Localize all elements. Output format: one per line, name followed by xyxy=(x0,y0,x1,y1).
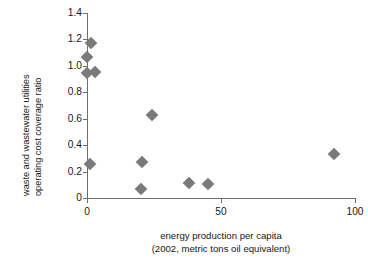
plot-area: 050100 xyxy=(87,13,355,198)
y-tick-mark xyxy=(83,13,87,14)
x-tick-mark xyxy=(355,198,356,203)
data-point-marker xyxy=(81,50,94,63)
data-point-marker xyxy=(202,178,215,191)
y-tick-label: 0.6 xyxy=(56,114,82,124)
y-tick-mark xyxy=(83,119,87,120)
data-point-marker xyxy=(136,156,149,169)
y-axis-title-line-2: operating cost coverage ratio xyxy=(33,78,43,196)
x-axis-title: energy production per capita (2002, metr… xyxy=(87,229,355,255)
x-axis-title-line-1: energy production per capita xyxy=(87,229,355,242)
y-tick-mark xyxy=(83,92,87,93)
data-point-marker xyxy=(327,148,340,161)
x-tick-label: 100 xyxy=(347,206,364,217)
data-point-marker xyxy=(89,66,102,79)
y-tick-label: 1.2 xyxy=(56,34,82,44)
data-point-marker xyxy=(135,183,148,196)
y-tick-label: 0 xyxy=(56,193,82,203)
scatter-chart: waste and wastewater utilities operating… xyxy=(0,0,368,273)
y-tick-label: 0.8 xyxy=(56,87,82,97)
y-tick-label: 1.4 xyxy=(56,8,82,18)
data-point-marker xyxy=(84,157,97,170)
data-point-marker xyxy=(182,176,195,189)
y-tick-label: 0.4 xyxy=(56,140,82,150)
x-tick-label: 0 xyxy=(84,206,90,217)
x-tick-mark xyxy=(87,198,88,203)
y-tick-mark xyxy=(83,145,87,146)
x-axis-title-line-2: (2002, metric tons oil equivalent) xyxy=(87,242,355,255)
data-point-marker xyxy=(146,108,159,121)
y-tick-mark xyxy=(83,172,87,173)
y-axis-tick-labels: 00.20.40.60.81.01.21.4 xyxy=(56,0,82,205)
y-axis-title: waste and wastewater utilities operating… xyxy=(0,0,62,205)
y-tick-label: 0.2 xyxy=(56,167,82,177)
x-tick-mark xyxy=(221,198,222,203)
y-tick-label: 1.0 xyxy=(56,61,82,71)
y-axis-title-line-1: waste and wastewater utilities xyxy=(21,75,31,197)
x-tick-label: 50 xyxy=(215,206,226,217)
